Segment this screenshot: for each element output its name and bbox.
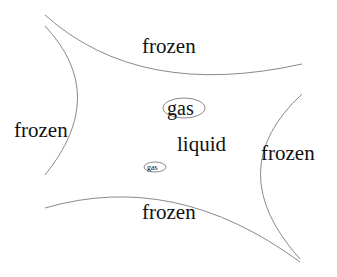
label-frozen-left: frozen [14, 118, 68, 142]
right-boundary-curve [260, 94, 302, 259]
label-gas-large: gas [167, 97, 194, 120]
label-frozen-top: frozen [142, 34, 196, 58]
label-liquid: liquid [177, 132, 227, 156]
label-frozen-bottom: frozen [142, 200, 196, 224]
left-boundary-curve [45, 26, 78, 175]
label-gas-small: gas [147, 163, 158, 172]
phase-diagram: frozen frozen frozen frozen liquid gas g… [0, 0, 337, 277]
label-frozen-right: frozen [261, 141, 315, 165]
